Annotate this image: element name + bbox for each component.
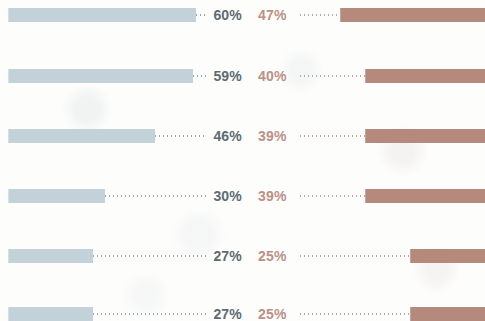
bar-right[interactable] (365, 69, 485, 83)
leader-line-right (300, 313, 410, 315)
bar-right[interactable] (365, 129, 485, 143)
bar-left[interactable] (8, 307, 93, 321)
leader-line-left (196, 14, 206, 16)
bar-right[interactable] (410, 307, 485, 321)
leader-line-right (300, 135, 365, 137)
chart-row: 27%25% (0, 307, 485, 321)
bar-right[interactable] (340, 8, 485, 22)
bar-left[interactable] (8, 129, 155, 143)
leader-line-left (155, 135, 206, 137)
leader-line-left (105, 195, 206, 197)
leader-line-left (93, 313, 206, 315)
value-label-right: 40% (258, 66, 287, 86)
leader-line-left (193, 75, 206, 77)
chart-row: 59%40% (0, 69, 485, 83)
back-to-back-bar-chart: 60%47%59%40%46%39%30%39%27%25%27%25% (0, 0, 485, 321)
bar-left[interactable] (8, 249, 93, 263)
chart-row: 27%25% (0, 249, 485, 263)
leader-line-left (93, 255, 206, 257)
value-label-left: 30% (213, 186, 242, 206)
chart-row: 46%39% (0, 129, 485, 143)
value-label-right: 25% (258, 304, 287, 321)
value-label-left: 46% (213, 126, 242, 146)
bar-left[interactable] (8, 69, 193, 83)
value-label-left: 60% (213, 5, 242, 25)
bar-right[interactable] (365, 189, 485, 203)
bar-right[interactable] (410, 249, 485, 263)
bar-left[interactable] (8, 189, 105, 203)
value-label-right: 47% (258, 5, 287, 25)
leader-line-right (300, 75, 365, 77)
value-label-left: 27% (213, 246, 242, 266)
value-label-right: 25% (258, 246, 287, 266)
paper-texture (0, 0, 485, 321)
chart-row: 30%39% (0, 189, 485, 203)
value-label-left: 27% (213, 304, 242, 321)
chart-row: 60%47% (0, 8, 485, 22)
value-label-left: 59% (213, 66, 242, 86)
value-label-right: 39% (258, 126, 287, 146)
leader-line-right (300, 195, 365, 197)
value-label-right: 39% (258, 186, 287, 206)
leader-line-right (300, 255, 410, 257)
bar-left[interactable] (8, 8, 196, 22)
leader-line-right (300, 14, 340, 16)
